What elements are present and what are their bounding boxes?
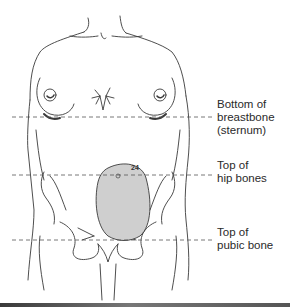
neck-left-line: [84, 18, 89, 32]
left-shoulder: [30, 32, 84, 100]
neck-right-line: [120, 16, 126, 33]
uterus-week-label: 24: [131, 164, 139, 171]
right-shoulder: [126, 33, 186, 96]
anatomy-figure: 24 Bottom of breastbone (sternum) Top of…: [0, 0, 290, 307]
left-torso-edge: [28, 100, 34, 280]
bottom-border: [0, 303, 290, 307]
torso-illustration: [0, 0, 290, 307]
sternum-label: Bottom of breastbone (sternum): [217, 98, 275, 137]
right-torso-edge: [185, 96, 189, 280]
uterus-shape: [96, 164, 150, 241]
hip-bones-label: Top of hip bones: [217, 159, 267, 185]
pubic-bone-label: Top of pubic bone: [217, 226, 273, 252]
